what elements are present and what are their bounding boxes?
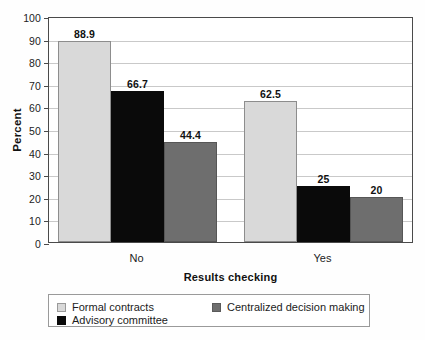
- y-axis-tick: [44, 63, 49, 64]
- bar-value-label: 66.7: [127, 78, 148, 90]
- x-axis-category-label: Yes: [314, 252, 332, 264]
- y-axis-tick-label: 90: [29, 35, 41, 47]
- y-axis-tick: [44, 108, 49, 109]
- legend: Formal contracts Centralized decision ma…: [48, 294, 370, 327]
- legend-item-centralized-decision-making: Centralized decision making: [212, 301, 365, 313]
- y-axis-tick-label: 70: [29, 80, 41, 92]
- bar: [244, 101, 297, 242]
- y-axis-tick: [44, 176, 49, 177]
- legend-label-formal-contracts: Formal contracts: [72, 301, 154, 313]
- y-axis-tick-label: 60: [29, 102, 41, 114]
- y-axis-tick-label: 40: [29, 148, 41, 160]
- y-axis-tick: [44, 221, 49, 222]
- bar: [350, 197, 403, 242]
- y-axis-tick-label: 10: [29, 215, 41, 227]
- y-axis-tick-label: 100: [23, 12, 41, 24]
- y-axis-tick: [44, 154, 49, 155]
- y-axis-tick-label: 0: [35, 238, 41, 250]
- bar-value-label: 20: [370, 184, 382, 196]
- legend-swatch-icon-advisory-committee: [57, 316, 66, 325]
- x-axis-title: Results checking: [184, 271, 278, 283]
- bar: [111, 91, 164, 242]
- legend-item-formal-contracts: Formal contracts: [57, 301, 154, 313]
- plot-area: 0102030405060708090100 88.966.744.462.52…: [48, 17, 413, 243]
- bar: [58, 41, 111, 242]
- y-axis-tick: [44, 199, 49, 200]
- legend-swatch-icon-centralized-decision-making: [212, 303, 221, 312]
- legend-label-advisory-committee: Advisory committee: [72, 314, 168, 326]
- y-axis-tick-label: 20: [29, 193, 41, 205]
- legend-item-advisory-committee: Advisory committee: [57, 314, 168, 326]
- bar-value-label: 62.5: [260, 88, 281, 100]
- bar: [164, 142, 217, 242]
- y-axis-tick: [44, 18, 49, 19]
- y-axis-title: Percent: [11, 108, 23, 152]
- y-axis-tick: [44, 131, 49, 132]
- legend-label-centralized-decision-making: Centralized decision making: [227, 301, 365, 313]
- bar-value-label: 88.9: [74, 28, 95, 40]
- bar-value-label: 25: [317, 173, 329, 185]
- bar: [297, 186, 350, 243]
- bar-value-label: 44.4: [180, 129, 201, 141]
- bar-chart: Percent 0102030405060708090100 88.966.74…: [0, 0, 425, 340]
- y-axis-tick: [44, 86, 49, 87]
- x-axis-category-label: No: [129, 252, 143, 264]
- y-axis-tick: [44, 41, 49, 42]
- y-axis-tick-label: 30: [29, 170, 41, 182]
- y-axis-tick: [44, 244, 49, 245]
- y-axis-tick-label: 50: [29, 125, 41, 137]
- legend-swatch-icon-formal-contracts: [57, 303, 66, 312]
- y-axis-tick-label: 80: [29, 57, 41, 69]
